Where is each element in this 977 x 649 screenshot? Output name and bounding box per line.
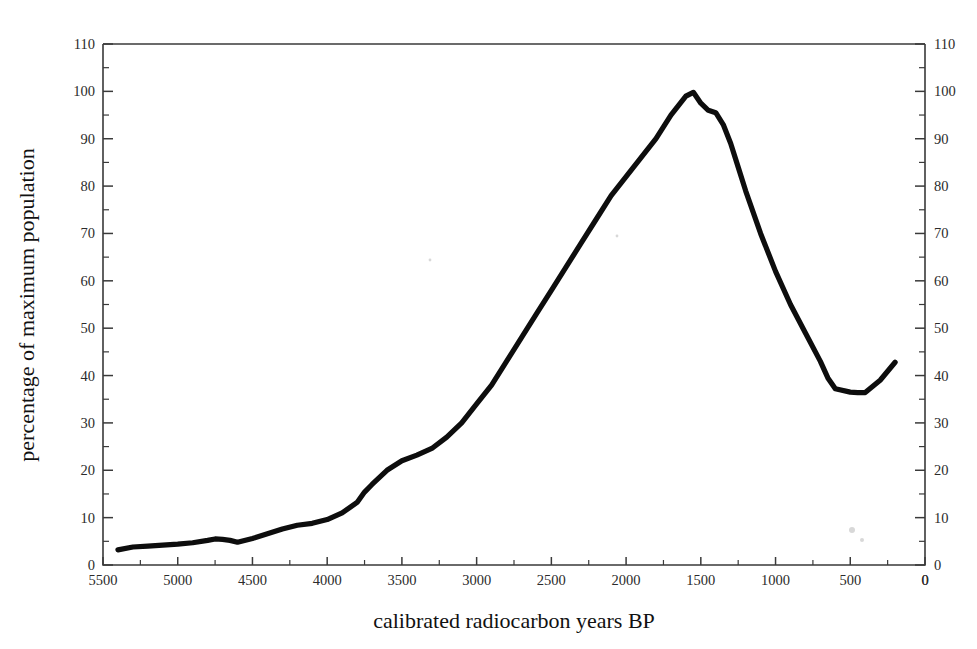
x-tick-label: 4500 xyxy=(238,572,267,588)
scan-artifact xyxy=(849,527,855,533)
y-tick-label-right: 110 xyxy=(934,36,955,52)
population-curve-chart: 5500500045004000350030002500200015001000… xyxy=(0,0,977,649)
y-tick-label-right: 60 xyxy=(934,273,949,289)
series-line-population xyxy=(118,92,895,550)
y-tick-label-left: 50 xyxy=(81,320,96,336)
scan-artifact xyxy=(616,235,619,238)
y-tick-label-right: 10 xyxy=(934,510,949,526)
y-tick-label-left: 70 xyxy=(81,225,96,241)
y-tick-label-right: 80 xyxy=(934,178,949,194)
tick-marks xyxy=(103,44,925,565)
y-tick-label-left: 110 xyxy=(74,36,95,52)
y-tick-labels-left: 0102030405060708090100110 xyxy=(73,36,95,573)
y-tick-label-right: 100 xyxy=(934,83,956,99)
x-tick-label: 2500 xyxy=(537,572,566,588)
axis-frame xyxy=(103,44,925,565)
x-tick-label: 0 xyxy=(921,572,928,588)
x-tick-label: 2000 xyxy=(612,572,641,588)
y-tick-label-right: 90 xyxy=(934,131,949,147)
scan-artifact xyxy=(429,259,432,262)
y-tick-label-right: 70 xyxy=(934,225,949,241)
y-axis-title: percentage of maximum population xyxy=(14,148,39,461)
y-tick-label-right: 0 xyxy=(934,557,941,573)
y-tick-label-left: 10 xyxy=(81,510,96,526)
y-tick-label-right: 20 xyxy=(934,462,949,478)
x-tick-label: 3500 xyxy=(387,572,416,588)
y-tick-label-left: 40 xyxy=(81,368,96,384)
x-tick-label: 5000 xyxy=(163,572,192,588)
y-tick-label-left: 0 xyxy=(88,557,95,573)
y-tick-label-left: 90 xyxy=(81,131,96,147)
y-tick-label-right: 30 xyxy=(934,415,949,431)
y-tick-label-right: 50 xyxy=(934,320,949,336)
y-tick-label-left: 80 xyxy=(81,178,96,194)
x-tick-label: 5500 xyxy=(89,572,118,588)
axes xyxy=(103,44,925,565)
y-tick-label-left: 100 xyxy=(73,83,95,99)
x-axis-title: calibrated radiocarbon years BP xyxy=(373,608,655,633)
y-tick-label-left: 60 xyxy=(81,273,96,289)
y-tick-label-left: 30 xyxy=(81,415,96,431)
chart-container: 5500500045004000350030002500200015001000… xyxy=(0,0,977,649)
x-tick-label: 1000 xyxy=(761,572,790,588)
y-tick-label-left: 20 xyxy=(81,462,96,478)
data-series xyxy=(118,92,895,550)
y-tick-labels-right: 0102030405060708090100110 xyxy=(934,36,956,573)
x-tick-labels: 5500500045004000350030002500200015001000… xyxy=(89,572,929,588)
y-tick-label-right: 40 xyxy=(934,368,949,384)
x-tick-label: 4000 xyxy=(313,572,342,588)
x-tick-label: 1500 xyxy=(686,572,715,588)
x-tick-label: 500 xyxy=(839,572,861,588)
scan-artifact xyxy=(860,538,864,542)
x-tick-label: 3000 xyxy=(462,572,491,588)
